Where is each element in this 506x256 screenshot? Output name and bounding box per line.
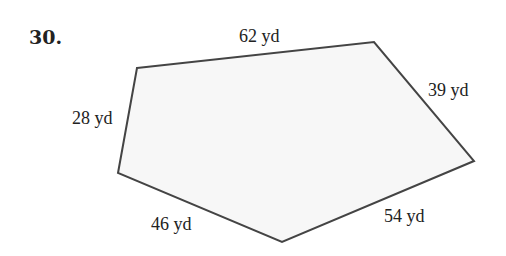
side-label-lower-left: 46 yd	[151, 214, 192, 235]
side-label-left: 28 yd	[72, 108, 113, 129]
side-label-lower-right: 54 yd	[384, 206, 425, 227]
side-label-top: 62 yd	[239, 26, 280, 47]
side-label-upper-right: 39 yd	[428, 80, 469, 101]
